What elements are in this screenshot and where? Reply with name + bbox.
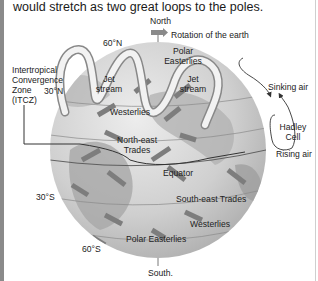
label-polar-easterlies-south: Polar Easterlies (126, 234, 186, 244)
label-equator: Equator (163, 168, 193, 178)
label-polar-easterlies-north: Polar Easterlies (163, 46, 203, 66)
label-jet-stream-right: Jet stream (176, 74, 210, 94)
label-30n: 30°N (44, 86, 63, 96)
label-60s: 60°S (82, 244, 101, 254)
label-rotation: Rotation of the earth (171, 30, 249, 40)
label-westerlies-north: Westerlies (110, 107, 150, 117)
label-hadley-cell: Hadley Cell (276, 122, 310, 142)
label-north: North (150, 16, 171, 26)
label-south: South. (148, 268, 173, 278)
label-jet-stream-left: Jet stream (92, 74, 126, 94)
label-ne-trades: North-east Trades (112, 135, 162, 155)
label-sinking-air: Sinking air (268, 82, 308, 92)
label-60n: 60°N (103, 38, 122, 48)
rotation-arrow-icon (151, 30, 163, 35)
label-westerlies-south: Westerlies (190, 219, 230, 229)
label-rising-air: Rising air (276, 149, 312, 159)
label-se-trades: South-east Trades (176, 194, 246, 204)
label-itcz: Intertropical Convergence Zone (ITCZ) (12, 65, 63, 105)
label-30s: 30°S (36, 192, 55, 202)
